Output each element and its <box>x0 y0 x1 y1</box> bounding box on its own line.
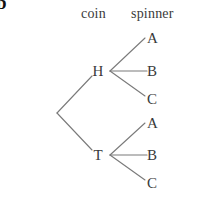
leaf-tails-spinner-c: C <box>147 175 163 192</box>
node-coin-heads: H <box>90 63 106 80</box>
branch-h-to-c <box>110 71 145 96</box>
column-header-spinner: spinner <box>131 6 174 22</box>
branch-root-to-t <box>57 113 92 150</box>
column-header-coin: coin <box>81 6 106 22</box>
branch-t-to-a <box>110 123 145 155</box>
leaf-heads-spinner-b: B <box>147 63 163 80</box>
tree-branch-lines <box>0 0 205 203</box>
branch-h-to-a <box>110 38 145 71</box>
branch-t-to-c <box>110 155 145 180</box>
leaf-tails-spinner-b: B <box>147 147 163 164</box>
leaf-tails-spinner-a: A <box>147 115 163 132</box>
probability-tree-figure: b coin spinner H T A B C A B C <box>0 0 205 203</box>
leaf-heads-spinner-a: A <box>147 30 163 47</box>
branch-root-to-h <box>57 76 92 113</box>
leaf-heads-spinner-c: C <box>147 91 163 108</box>
node-coin-tails: T <box>90 147 106 164</box>
